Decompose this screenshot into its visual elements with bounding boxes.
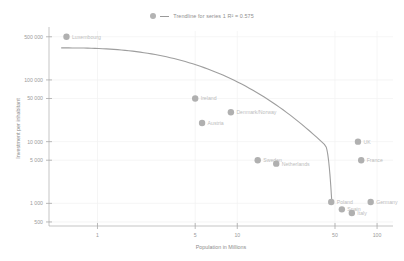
data-point-label: Luxembourg xyxy=(72,34,101,40)
x-axis-title: Population in Millions xyxy=(196,244,247,250)
trendline-path xyxy=(61,48,332,203)
data-point[interactable] xyxy=(358,157,364,163)
data-point[interactable] xyxy=(199,120,205,126)
data-point[interactable] xyxy=(228,109,234,115)
trendline xyxy=(61,48,332,203)
data-point[interactable] xyxy=(339,206,345,212)
data-point[interactable] xyxy=(255,157,261,163)
y-axis-title: Investment per inhabitant xyxy=(15,98,21,159)
data-point[interactable] xyxy=(367,199,373,205)
x-tick-label: 50 xyxy=(332,232,338,238)
y-tick-label: 10 000 xyxy=(27,139,43,145)
data-point-label: Netherlands xyxy=(282,161,310,167)
data-point-label: Denmark/Norway xyxy=(236,109,276,115)
scatter-chart: Trendline for series 1 R² = 0.575 Luxemb… xyxy=(0,0,404,261)
data-point[interactable] xyxy=(349,210,355,216)
plot-area: LuxembourgIrelandDenmark/NorwayAustriaSw… xyxy=(0,0,404,261)
data-point-label: UK xyxy=(363,139,371,145)
data-point[interactable] xyxy=(63,34,69,40)
x-tick-label: 100 xyxy=(373,232,382,238)
x-tick-label: 1 xyxy=(96,232,99,238)
y-tick-label: 5 000 xyxy=(30,157,43,163)
data-point[interactable] xyxy=(328,199,334,205)
y-tick-label: 1 000 xyxy=(30,200,43,206)
data-point-label: Germany xyxy=(376,199,398,205)
y-tick-label: 500 000 xyxy=(24,34,43,40)
y-tick-label: 500 xyxy=(34,219,43,225)
data-point-label: France xyxy=(367,157,383,163)
x-tick-label: 10 xyxy=(234,232,240,238)
y-tick-label: 50 000 xyxy=(27,95,43,101)
axis-tick-labels: 500 000100 00050 00010 0005 0001 0005001… xyxy=(24,34,381,238)
data-point[interactable] xyxy=(355,138,361,144)
y-tick-label: 100 000 xyxy=(24,77,43,83)
grid-lines xyxy=(49,31,393,226)
data-point-label: Austria xyxy=(208,120,224,126)
data-point-label: Italy xyxy=(357,210,367,216)
data-point[interactable] xyxy=(273,160,279,166)
data-point-label: Ireland xyxy=(201,95,217,101)
x-tick-label: 5 xyxy=(194,232,197,238)
data-point-label: Poland xyxy=(337,199,353,205)
data-point[interactable] xyxy=(192,95,198,101)
data-points: LuxembourgIrelandDenmark/NorwayAustriaSw… xyxy=(63,34,398,217)
data-point-label: Sweden xyxy=(263,157,282,163)
